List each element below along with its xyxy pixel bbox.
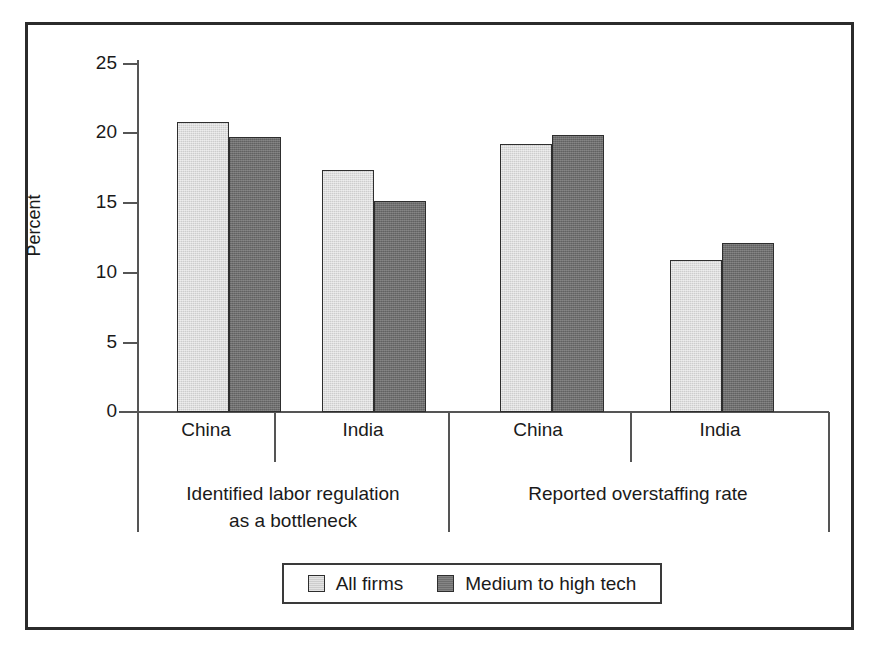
y-ticklabel-25-wrap: 25 (72, 53, 117, 73)
chart-figure: Percent 25 20 15 10 5 0 China Ind (0, 0, 881, 655)
legend-entry-medium-high-tech: Medium to high tech (437, 573, 636, 595)
category-separator-right-edge (828, 412, 830, 532)
bar-medium-high-tech-india-regulation (374, 201, 426, 412)
category-label-china-overstaffing: China (443, 419, 633, 441)
y-ticklabel-0-wrap: 0 (72, 401, 117, 421)
y-ticklabel-5-wrap: 5 (72, 332, 117, 352)
bar-medium-high-tech-china-regulation (229, 137, 281, 412)
bar-medium-high-tech-china-overstaffing (552, 135, 604, 412)
y-ticklabel-15: 15 (77, 192, 117, 211)
category-label-india-overstaffing: India (625, 419, 815, 441)
legend-swatch-all-firms-icon (308, 575, 325, 592)
bar-all-firms-india-regulation (322, 170, 374, 412)
group-label-regulation: Identified labor regulation as a bottlen… (123, 480, 463, 534)
y-ticklabel-20-wrap: 20 (72, 122, 117, 142)
category-label-india-regulation: India (268, 419, 458, 441)
group-label-overstaffing: Reported overstaffing rate (468, 480, 808, 507)
y-tick-15 (123, 202, 137, 204)
y-ticklabel-10: 10 (77, 262, 117, 281)
bar-all-firms-india-overstaffing (670, 260, 722, 412)
group-label-regulation-line1: Identified labor regulation (123, 480, 463, 507)
legend-label-medium-high-tech: Medium to high tech (465, 573, 636, 595)
group-label-overstaffing-line1: Reported overstaffing rate (468, 480, 808, 507)
y-tick-20 (123, 132, 137, 134)
legend-entry-all-firms: All firms (308, 573, 404, 595)
bar-medium-high-tech-india-overstaffing (722, 243, 774, 412)
y-ticklabel-10-wrap: 10 (72, 262, 117, 282)
y-ticklabel-0: 0 (77, 401, 117, 420)
y-tick-0 (123, 411, 137, 413)
bar-all-firms-china-regulation (177, 122, 229, 412)
group-label-regulation-line2: as a bottleneck (123, 507, 463, 534)
plot-area (137, 60, 837, 412)
legend-swatch-medium-high-tech-icon (437, 575, 454, 592)
chart-legend: All firms Medium to high tech (282, 563, 662, 604)
y-ticklabel-5: 5 (77, 332, 117, 351)
y-ticklabel-15-wrap: 15 (72, 192, 117, 212)
y-tick-5 (123, 342, 137, 344)
legend-label-all-firms: All firms (336, 573, 404, 595)
bar-all-firms-china-overstaffing (500, 144, 552, 412)
y-ticklabel-25: 25 (77, 53, 117, 72)
y-tick-10 (123, 272, 137, 274)
y-tick-25 (123, 63, 137, 65)
y-axis-title: Percent (24, 156, 45, 296)
y-ticklabel-20: 20 (77, 122, 117, 141)
